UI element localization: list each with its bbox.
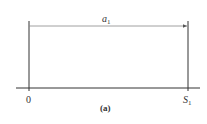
s1-label-sub: 1	[188, 99, 192, 107]
s1-label: S1	[183, 95, 192, 107]
arrow-label-sub: 1	[107, 18, 111, 26]
figure-caption: (a)	[100, 104, 111, 113]
arrow-label-a1: a1	[102, 14, 111, 26]
origin-label: 0	[26, 95, 31, 105]
